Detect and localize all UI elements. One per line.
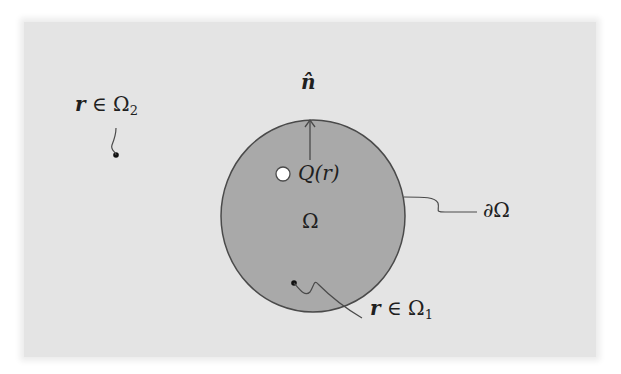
source-label: Q(r) — [298, 161, 340, 185]
inside-point-sub: 1 — [425, 307, 433, 322]
diagram-graphics — [0, 0, 621, 374]
inside-point-rel: ∈ Ω — [381, 296, 425, 320]
outside-point-leader-line — [112, 128, 116, 155]
inside-point-var: r — [370, 296, 381, 320]
normal-vector-label: n̂ — [301, 70, 316, 94]
boundary-label: ∂Ω — [483, 198, 510, 222]
boundary-leader-line — [404, 197, 477, 212]
outside-point-label: r ∈ Ω2 — [75, 92, 138, 118]
source-point-marker — [276, 167, 290, 181]
outside-point-sub: 2 — [130, 103, 138, 118]
outside-point-var: r — [75, 92, 86, 116]
domain-label: Ω — [302, 209, 319, 233]
inside-point-label: r ∈ Ω1 — [370, 296, 433, 322]
outside-point-rel: ∈ Ω — [86, 92, 130, 116]
